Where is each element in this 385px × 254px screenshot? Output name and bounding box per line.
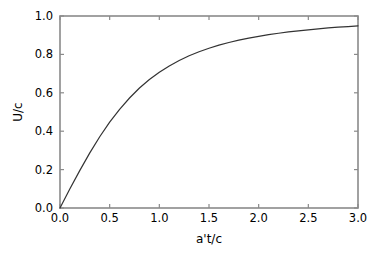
- x-axis-tick-labels: 0.00.51.01.52.02.53.0: [51, 211, 367, 225]
- x-tick-label: 2.5: [299, 211, 317, 225]
- y-axis-tickmarks: [60, 16, 358, 208]
- x-tick-label: 0.0: [51, 211, 69, 225]
- y-axis-title: U/c: [11, 102, 25, 121]
- y-tick-label: 0.6: [35, 86, 53, 100]
- x-axis-tickmarks: [60, 16, 358, 208]
- plot-frame: [60, 16, 358, 208]
- x-tick-label: 0.5: [101, 211, 119, 225]
- x-tick-label: 2.0: [250, 211, 268, 225]
- x-tick-label: 1.5: [200, 211, 218, 225]
- y-tick-label: 1.0: [35, 9, 53, 23]
- chart-figure: 0.00.51.01.52.02.53.0 0.00.20.40.60.81.0…: [0, 0, 385, 254]
- y-tick-label: 0.0: [35, 201, 53, 215]
- y-tick-label: 0.2: [35, 163, 53, 177]
- x-tick-label: 3.0: [349, 211, 367, 225]
- y-tick-label: 0.8: [35, 47, 53, 61]
- y-axis-tick-labels: 0.00.20.40.60.81.0: [35, 9, 53, 215]
- x-tick-label: 1.0: [150, 211, 168, 225]
- y-tick-label: 0.4: [35, 124, 53, 138]
- data-series-line: [60, 26, 358, 208]
- line-chart: 0.00.51.01.52.02.53.0 0.00.20.40.60.81.0…: [0, 0, 385, 254]
- x-axis-title: a't/c: [196, 232, 222, 246]
